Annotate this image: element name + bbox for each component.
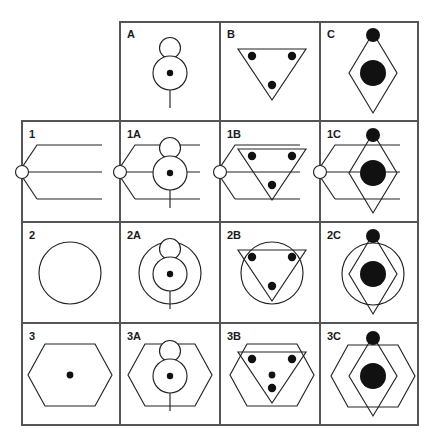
cell-label-3B: 3B — [227, 330, 241, 342]
cell-1: 1 — [16, 128, 103, 199]
figure-A — [153, 38, 187, 109]
cell-label-1C: 1C — [327, 128, 341, 140]
figure-3C — [331, 331, 415, 416]
figure-1C — [314, 128, 401, 213]
cell-label-1B: 1B — [227, 128, 241, 140]
cell-1C: 1C — [314, 128, 401, 213]
cell-2A: 2A — [127, 229, 201, 309]
cell-2: 2 — [29, 229, 101, 304]
grid-lines — [22, 22, 418, 425]
figure-B — [238, 49, 306, 100]
figure-3B — [230, 344, 314, 406]
logic-matrix-figure: A B C 1 1A — [0, 0, 437, 440]
cell-label-3C: 3C — [327, 330, 341, 342]
figure-2A — [139, 239, 201, 310]
cell-label-B: B — [227, 28, 235, 40]
cell-label-A: A — [127, 28, 135, 40]
cell-label-1: 1 — [29, 128, 35, 140]
cell-1A: 1A — [114, 128, 201, 208]
cell-3A: 3A — [127, 330, 212, 411]
cell-label-2C: 2C — [327, 229, 341, 241]
cell-1B: 1B — [214, 128, 307, 200]
cell-3C: 3C — [327, 330, 415, 416]
cell-label-1A: 1A — [127, 128, 141, 140]
cell-C: C — [327, 28, 397, 113]
cell-A: A — [127, 28, 187, 108]
matrix-canvas: A B C 1 1A — [0, 0, 437, 440]
cell-label-2A: 2A — [127, 229, 141, 241]
cell-label-C: C — [327, 28, 335, 40]
figure-1A — [114, 138, 201, 209]
cell-2B: 2B — [227, 229, 306, 304]
cell-B: B — [227, 28, 306, 100]
cell-3B: 3B — [227, 330, 314, 406]
cell-label-3: 3 — [29, 330, 35, 342]
figure-C — [349, 28, 397, 113]
figure-3A — [128, 341, 212, 412]
cell-2C: 2C — [327, 229, 404, 314]
figure-1 — [16, 145, 103, 199]
figure-1B — [214, 145, 307, 200]
cell-label-2: 2 — [29, 229, 35, 241]
figure-2 — [39, 242, 101, 304]
cell-3: 3 — [28, 330, 112, 406]
figure-3 — [28, 344, 112, 406]
cell-label-3A: 3A — [127, 330, 141, 342]
figure-2C — [342, 229, 404, 314]
figure-2B — [238, 242, 306, 304]
cell-label-2B: 2B — [227, 229, 241, 241]
